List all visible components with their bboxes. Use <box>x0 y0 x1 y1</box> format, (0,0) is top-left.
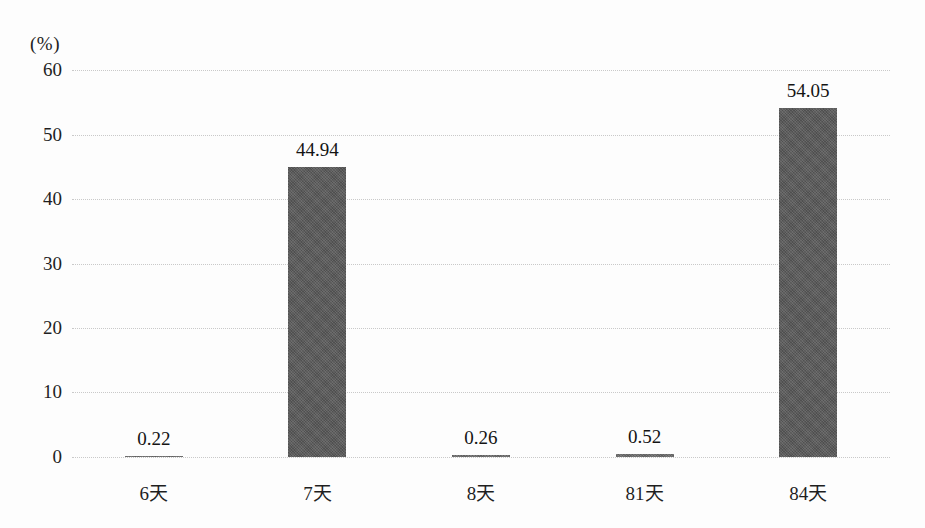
y-axis-tick-labels: 60 50 40 30 20 10 0 <box>14 70 62 457</box>
bar-slot-81days: 0.52 <box>563 70 727 457</box>
y-tick-30: 30 <box>18 252 62 274</box>
bar-value-6days: 0.22 <box>137 428 170 450</box>
bar-value-7days: 44.94 <box>296 139 339 161</box>
bar-slot-7days: 44.94 <box>236 70 400 457</box>
plot-area: 0.22 44.94 0.26 0.52 54.05 <box>72 70 890 457</box>
y-tick-0: 0 <box>18 446 62 468</box>
y-axis-unit-label: (%) <box>30 33 60 55</box>
x-tick-84days: 84天 <box>789 478 827 505</box>
y-tick-40: 40 <box>18 188 62 210</box>
bar-slot-84days: 54.05 <box>726 70 890 457</box>
gridline-baseline-0 <box>72 457 890 458</box>
x-tick-7days: 7天 <box>303 478 332 505</box>
bar-value-81days: 0.52 <box>628 426 661 448</box>
bar-slot-8days: 0.26 <box>399 70 563 457</box>
x-tick-8days: 8天 <box>467 478 496 505</box>
y-tick-20: 20 <box>18 317 62 339</box>
x-axis-tick-labels: 6天 7天 8天 81天 84天 <box>72 478 890 514</box>
bar-value-84days: 54.05 <box>787 80 830 102</box>
x-tick-6days: 6天 <box>140 478 169 505</box>
bar-6days[interactable]: 0.22 <box>125 456 183 457</box>
bar-84days[interactable]: 54.05 <box>779 108 837 457</box>
y-tick-60: 60 <box>18 59 62 81</box>
chart-page: (%) 60 50 40 30 20 10 0 0.22 44.94 0.2 <box>0 0 925 528</box>
bar-81days[interactable]: 0.52 <box>616 454 674 457</box>
y-tick-50: 50 <box>18 123 62 145</box>
bar-8days[interactable]: 0.26 <box>452 455 510 457</box>
y-tick-10: 10 <box>18 381 62 403</box>
bar-value-8days: 0.26 <box>464 427 497 449</box>
bar-slot-6days: 0.22 <box>72 70 236 457</box>
x-tick-81days: 81天 <box>626 478 664 505</box>
bar-7days[interactable]: 44.94 <box>288 167 346 457</box>
